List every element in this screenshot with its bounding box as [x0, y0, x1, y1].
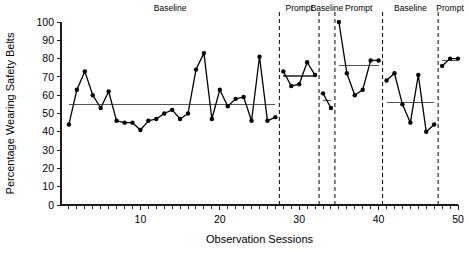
data-point [226, 104, 230, 108]
phase-label: Prompt [345, 3, 373, 13]
data-point [194, 67, 198, 71]
data-point [106, 89, 110, 93]
data-point [289, 84, 293, 88]
data-point [114, 119, 118, 123]
y-tick-label: 50 [42, 107, 54, 119]
y-tick-label: 100 [36, 16, 54, 28]
data-point [424, 130, 428, 134]
data-point [353, 93, 357, 97]
data-point [329, 106, 333, 110]
data-point [162, 111, 166, 115]
x-tick-label: 10 [135, 213, 147, 225]
data-point [241, 95, 245, 99]
data-point [170, 108, 174, 112]
data-point [376, 58, 380, 62]
data-point [400, 102, 404, 106]
data-point [368, 58, 372, 62]
data-point [130, 120, 134, 124]
x-tick-label: 40 [373, 213, 385, 225]
data-point [178, 117, 182, 121]
data-point [392, 71, 396, 75]
y-axis-ticks: 0102030405060708090100 [36, 16, 61, 211]
phase-label: Baseline [394, 3, 427, 13]
data-point [146, 119, 150, 123]
phase-label: Prompt [436, 3, 464, 13]
y-tick-label: 20 [42, 162, 54, 174]
phase-labels: BaselinePromptBaselinePromptBaselineProm… [154, 3, 465, 13]
y-tick-label: 60 [42, 89, 54, 101]
data-point [432, 122, 436, 126]
phase-label: Prompt [285, 3, 313, 13]
data-point [257, 55, 261, 59]
x-tick-label: 50 [452, 213, 464, 225]
y-tick-label: 40 [42, 125, 54, 137]
data-point [218, 88, 222, 92]
data-point [361, 88, 365, 92]
y-tick-label: 10 [42, 180, 54, 192]
data-point [321, 91, 325, 95]
data-point [186, 111, 190, 115]
data-point [273, 115, 277, 119]
data-point [99, 106, 103, 110]
data-point [83, 69, 87, 73]
data-point [313, 73, 317, 77]
data-point [67, 122, 71, 126]
phase-label: Baseline [154, 3, 187, 13]
data-point [416, 73, 420, 77]
data-point [408, 120, 412, 124]
data-point [138, 128, 142, 132]
data-point [122, 120, 126, 124]
data-point [210, 117, 214, 121]
y-tick-label: 70 [42, 71, 54, 83]
data-point [384, 78, 388, 82]
data-series-lines [69, 22, 458, 132]
data-point [154, 117, 158, 121]
y-axis-title: Percentage Wearing Safety Belts [4, 32, 16, 194]
data-point [345, 71, 349, 75]
data-point [75, 88, 79, 92]
data-point [91, 93, 95, 97]
data-point [297, 82, 301, 86]
y-tick-label: 0 [48, 199, 54, 211]
data-point [440, 64, 444, 68]
phase-divider-lines [279, 12, 438, 205]
data-point [249, 119, 253, 123]
x-tick-label: 30 [293, 213, 305, 225]
data-points [67, 20, 460, 134]
data-point [305, 60, 309, 64]
data-point [456, 56, 460, 60]
data-point [265, 119, 269, 123]
x-tick-label: 20 [214, 213, 226, 225]
chart-figure: BaselinePromptBaselinePromptBaselineProm… [0, 0, 468, 258]
x-axis-ticks: 1020304050 [69, 205, 464, 225]
data-point [448, 56, 452, 60]
y-tick-label: 90 [42, 34, 54, 46]
data-point [281, 69, 285, 73]
safety-belt-line-chart: BaselinePromptBaselinePromptBaselineProm… [0, 0, 468, 258]
data-point [202, 51, 206, 55]
y-tick-label: 30 [42, 144, 54, 156]
phase-mean-lines [69, 60, 458, 104]
x-axis-title: Observation Sessions [206, 233, 313, 245]
phase-label: Baseline [311, 3, 344, 13]
y-tick-label: 80 [42, 52, 54, 64]
data-point [337, 20, 341, 24]
data-point [233, 97, 237, 101]
